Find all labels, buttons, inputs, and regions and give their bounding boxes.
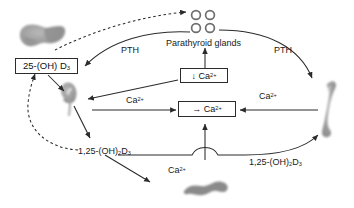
edge-vitd-to-kidney xyxy=(48,75,64,91)
calcium-box[interactable]: → Ca2+ xyxy=(178,101,236,117)
parathyroid-glands-label: Parathyroid glands xyxy=(166,39,241,48)
edge-kidney-to-calcitriol xyxy=(74,106,90,138)
calcium-left-label: Ca2+ xyxy=(126,96,144,105)
vitamin-d-25oh-label: 25-(OH) D3 xyxy=(23,60,70,71)
calcitriol-left-label: 1,25-(OH)2D3 xyxy=(78,147,131,157)
calcium-right-label: Ca2+ xyxy=(259,92,277,101)
calcitriol-right-label: 1,25-(OH)2D3 xyxy=(249,158,302,168)
figure-canvas: 25-(OH) D3 ↓ Ca2+ → Ca2+ Parathyroid gla… xyxy=(0,0,354,208)
vitamin-d-25oh-box[interactable]: 25-(OH) D3 xyxy=(15,58,78,74)
edge-calcitriol-to-intestine xyxy=(105,155,150,182)
pth-right-label: PTH xyxy=(274,46,292,55)
edge-calcitriol-to-bone xyxy=(245,135,318,155)
low-calcium-label: ↓ Ca2+ xyxy=(192,71,217,81)
intestine-icon xyxy=(184,182,228,196)
kidney-icon xyxy=(61,83,77,115)
calcium-label: → Ca2+ xyxy=(192,104,221,114)
low-calcium-box[interactable]: ↓ Ca2+ xyxy=(180,68,228,83)
calcium-gut-label: Ca2+ xyxy=(168,166,186,175)
liver-icon xyxy=(20,24,65,46)
diagram-vector-layer xyxy=(0,0,354,208)
gut-membrane-line xyxy=(118,147,245,155)
pth-left-label: PTH xyxy=(121,46,139,55)
bone-icon xyxy=(322,81,336,137)
parathyroid-glands-icon xyxy=(192,11,215,33)
